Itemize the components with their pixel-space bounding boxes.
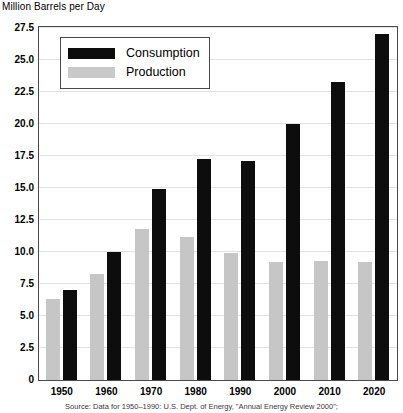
bar-consumption-1960 (107, 252, 121, 380)
chart-legend: Consumption Production (60, 37, 210, 89)
source-note: Source: Data for 1950–1990: U.S. Dept. o… (0, 402, 403, 411)
bar-consumption-1990 (241, 161, 255, 380)
legend-swatch-consumption (68, 48, 115, 59)
x-tick-label: 1980 (185, 386, 207, 397)
y-tick-label: 10.0 (0, 247, 34, 257)
bar-chart: Million Barrels per Day 02.55.07.510.012… (0, 0, 403, 413)
bar-consumption-2000 (286, 124, 300, 380)
bar-consumption-1970 (152, 189, 166, 380)
bar-production-1990 (224, 253, 238, 380)
bar-production-1980 (180, 237, 194, 380)
bar-production-1950 (46, 299, 60, 380)
x-tick-label: 2000 (274, 386, 296, 397)
bar-production-1960 (90, 274, 104, 380)
legend-swatch-production (68, 67, 115, 78)
y-tick-label: 27.5 (0, 23, 34, 33)
bar-production-2010 (314, 261, 328, 380)
bar-consumption-2020 (375, 34, 389, 380)
x-tick-label: 2020 (363, 386, 385, 397)
y-tick-label: 22.5 (0, 87, 34, 97)
x-tick-label: 2010 (318, 386, 340, 397)
x-tick-label: 1970 (140, 386, 162, 397)
x-tick-label: 1950 (51, 386, 73, 397)
bar-production-2020 (358, 262, 372, 380)
y-tick-label: 25.0 (0, 55, 34, 65)
x-tick-label: 1990 (229, 386, 251, 397)
legend-label-consumption: Consumption (126, 47, 200, 60)
y-tick-label: 7.5 (0, 279, 34, 289)
legend-item-production: Production (68, 63, 200, 82)
y-tick-label: 17.5 (0, 151, 34, 161)
x-tick-label: 1960 (95, 386, 117, 397)
bar-consumption-1980 (197, 159, 211, 380)
y-tick-label: 12.5 (0, 215, 34, 225)
y-tick-label: 20.0 (0, 119, 34, 129)
bar-production-2000 (269, 262, 283, 380)
bar-production-1970 (135, 229, 149, 380)
bar-consumption-2010 (331, 82, 345, 380)
y-tick-label: 5.0 (0, 311, 34, 321)
y-axis-title: Million Barrels per Day (2, 1, 105, 13)
legend-item-consumption: Consumption (68, 44, 200, 63)
bar-consumption-1950 (63, 290, 77, 380)
legend-label-production: Production (126, 66, 186, 79)
y-tick-label: 2.5 (0, 343, 34, 353)
y-tick-label: 15.0 (0, 183, 34, 193)
y-tick-label: 0 (0, 375, 34, 385)
